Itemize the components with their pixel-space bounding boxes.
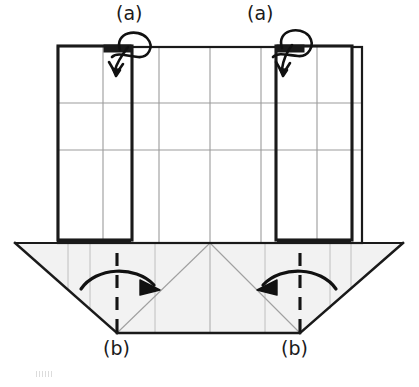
flap-right-fill (276, 46, 352, 240)
figure-root: (a) (a) (b) (b) (0, 0, 419, 387)
base-trapezoid-group (15, 243, 403, 333)
base-trapezoid-fill (15, 243, 403, 333)
scan-artifact-mark (36, 371, 54, 377)
label-b-right: (b) (281, 337, 308, 359)
flap-left-fill (58, 46, 132, 240)
label-a-left: (a) (116, 2, 142, 24)
flap-right-group (276, 45, 352, 242)
flap-left-group (58, 45, 132, 242)
fold-diagram-svg (0, 0, 419, 387)
label-b-left: (b) (103, 337, 130, 359)
label-a-right: (a) (247, 2, 273, 24)
